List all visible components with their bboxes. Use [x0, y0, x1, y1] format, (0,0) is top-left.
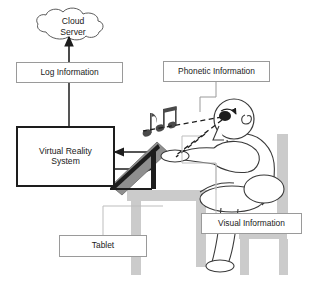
cloud-server-line2: Server	[60, 27, 85, 38]
node-tablet[interactable]: Tablet	[59, 235, 147, 257]
node-virtual-reality-system[interactable]: Virtual Reality System	[16, 126, 115, 187]
leader-phonetic	[200, 82, 216, 112]
node-log-information[interactable]: Log Information	[16, 62, 123, 83]
node-cloud-server[interactable]: Cloud Server	[44, 10, 102, 44]
node-phonetic-information[interactable]: Phonetic Information	[163, 61, 270, 82]
eye	[219, 111, 231, 121]
gaze-to-notes	[143, 117, 222, 131]
music-notes-icon	[142, 106, 177, 138]
diagram-canvas: Cloud Server Log Information Virtual Rea…	[0, 0, 319, 284]
cloud-server-line1: Cloud	[62, 16, 84, 27]
node-visual-information[interactable]: Visual Information	[201, 213, 302, 234]
